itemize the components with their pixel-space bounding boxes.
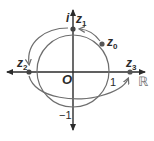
tick-label-minus-one: −1: [59, 109, 72, 121]
point-z0: [99, 41, 104, 46]
point-z1: [70, 26, 75, 31]
label-z2: z2: [17, 57, 27, 74]
label-z3-sub: 3: [132, 63, 136, 72]
real-axis-label: ℝ: [138, 76, 148, 88]
label-z1-sub: 1: [82, 19, 86, 28]
path-z1-to-z2: [29, 28, 68, 64]
origin-label: O: [62, 74, 72, 86]
label-z3: z3: [126, 57, 136, 74]
label-z0-sub: 0: [113, 42, 117, 51]
label-z0: z0: [107, 36, 117, 53]
label-z2-sub: 2: [23, 63, 27, 72]
imaginary-axis-label: i: [66, 12, 69, 24]
label-z1: z1: [76, 13, 86, 30]
tick-label-one: 1: [110, 76, 116, 88]
